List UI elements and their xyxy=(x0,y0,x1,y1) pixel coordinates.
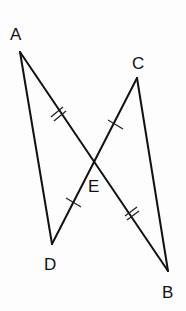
segment-cd xyxy=(52,78,137,244)
label-d: D xyxy=(44,255,56,274)
label-a: A xyxy=(10,25,22,44)
label-c: C xyxy=(132,54,144,73)
segment-cb xyxy=(137,78,168,271)
single-tick-ed xyxy=(66,198,81,207)
geometry-diagram: A C E D B xyxy=(0,0,186,311)
label-b: B xyxy=(162,283,173,302)
segment-ad xyxy=(20,52,52,244)
label-e: E xyxy=(88,177,99,196)
